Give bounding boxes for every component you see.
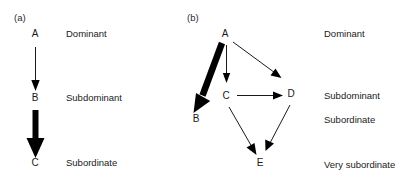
rank-label-b-dominant: Dominant (324, 28, 365, 39)
rank-label-b-subdominant: Subdominant (324, 90, 380, 101)
rank-label-a-subdominant: Subdominant (66, 92, 122, 103)
node-a-B: B (32, 92, 39, 103)
rank-label-a-dominant: Dominant (66, 28, 107, 39)
rank-label-b-very-subordinate: Very subordinate (324, 159, 395, 170)
node-b-B: B (193, 113, 200, 124)
node-b-E: E (257, 157, 264, 168)
node-b-D: D (287, 88, 294, 99)
dominance-hierarchy-figure: (a) A B C Dominant Subdominant Subordina… (0, 0, 416, 184)
node-a-A: A (32, 28, 39, 39)
node-b-C: C (222, 90, 229, 101)
node-b-A: A (222, 28, 229, 39)
rank-label-b-subordinate: Subordinate (324, 114, 375, 125)
panel-a-label: (a) (14, 12, 26, 23)
rank-label-a-subordinate: Subordinate (66, 157, 117, 168)
node-a-C: C (31, 157, 38, 168)
panel-b-label: (b) (187, 12, 199, 23)
